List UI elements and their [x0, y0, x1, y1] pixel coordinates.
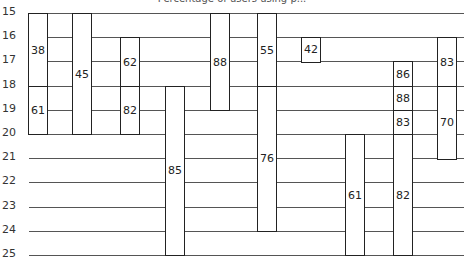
y-tick-label: 23: [2, 200, 24, 212]
y-tick-label: 16: [2, 30, 24, 42]
value-box: 86: [393, 61, 413, 87]
y-tick-label: 21: [2, 151, 24, 163]
value-box: 83: [437, 37, 457, 87]
value-box: 82: [393, 134, 413, 256]
y-tick-label: 22: [2, 175, 24, 187]
value-box: 62: [120, 37, 140, 87]
value-box: 42: [301, 37, 321, 63]
value-box: 88: [393, 86, 413, 112]
value-box: 76: [257, 86, 277, 233]
value-box: 61: [28, 86, 48, 136]
value-box: 45: [72, 13, 92, 135]
gridline: [29, 13, 464, 14]
value-box: 70: [437, 86, 457, 160]
gridline: [29, 37, 464, 38]
value-box: 83: [393, 110, 413, 136]
value-box: 82: [120, 86, 140, 136]
y-tick-label: 25: [2, 248, 24, 260]
value-box: 85: [165, 86, 185, 257]
chart-title: Percentage of users using p...: [0, 0, 464, 4]
value-box: 55: [257, 13, 277, 87]
chart-area: Percentage of users using p... 151617181…: [0, 0, 464, 261]
value-box: 88: [210, 13, 230, 111]
value-box: 38: [28, 13, 48, 87]
value-box: 61: [345, 134, 365, 256]
y-tick-label: 24: [2, 224, 24, 236]
y-tick-label: 18: [2, 79, 24, 91]
y-tick-label: 19: [2, 103, 24, 115]
y-tick-label: 17: [2, 54, 24, 66]
y-tick-label: 20: [2, 127, 24, 139]
y-tick-label: 15: [2, 6, 24, 18]
